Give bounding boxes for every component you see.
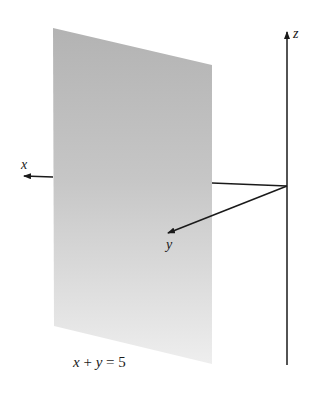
z-axis-label: z [292, 26, 299, 41]
eq-y: y [94, 354, 103, 370]
x-axis-label: x [20, 157, 28, 172]
plane-x-plus-y-equals-5 [53, 28, 212, 364]
diagram-svg: x y z x + y = 5 [0, 0, 311, 395]
eq-plus: + [80, 354, 96, 370]
eq-equals: = [102, 354, 118, 370]
x-axis-hidden-segment [212, 183, 287, 186]
y-axis-label: y [164, 237, 173, 252]
plane-equation-label: x + y = 5 [72, 354, 126, 370]
x-axis [24, 176, 53, 177]
eq-constant: 5 [118, 354, 126, 370]
plane-diagram: x y z x + y = 5 [0, 0, 311, 395]
